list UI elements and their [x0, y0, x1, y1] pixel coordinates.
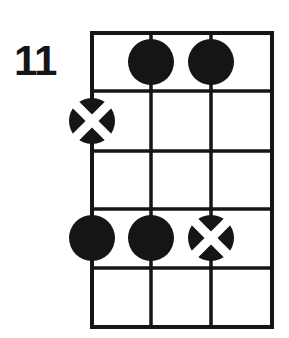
fret-position-label: 11 — [14, 38, 74, 84]
marker-cross-string3-fret4 — [188, 215, 234, 261]
marker-dot-string2-fret4 — [128, 215, 174, 261]
marker-cross-string1-fret2 — [69, 98, 115, 144]
filled-dot-icon — [69, 215, 115, 261]
filled-dot-icon — [188, 39, 234, 85]
chord-diagram: 11 — [0, 0, 289, 338]
marker-dot-string2-fret1 — [128, 39, 174, 85]
marker-dot-string3-fret1 — [188, 39, 234, 85]
filled-dot-icon — [128, 39, 174, 85]
marker-dot-string1-fret4 — [69, 215, 115, 261]
filled-dot-icon — [128, 215, 174, 261]
fret-lines-group — [92, 33, 272, 327]
string-lines-group — [92, 33, 272, 327]
